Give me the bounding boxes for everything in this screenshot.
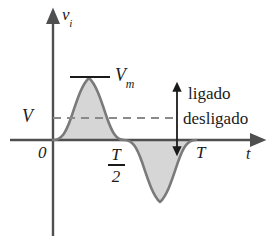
fraction-bar <box>108 164 125 166</box>
peak-label-subscript: m <box>126 77 135 91</box>
peak-label-base: V <box>115 65 126 85</box>
period-label: T <box>196 144 205 161</box>
on-label: ligado <box>188 85 231 102</box>
negative-half-shading <box>124 140 196 202</box>
origin-label: 0 <box>38 144 47 161</box>
y-axis-label: vi <box>62 6 73 27</box>
waveform-figure: vi Vm V 0 T 2 T t ligado desligado <box>0 0 273 248</box>
x-axis-label: t <box>246 146 250 162</box>
threshold-label: V <box>22 107 33 125</box>
off-label: desligado <box>183 110 248 127</box>
half-period-numerator: T <box>103 146 129 164</box>
half-period-denominator: 2 <box>103 167 129 185</box>
peak-label: Vm <box>115 66 135 88</box>
y-axis-label-subscript: i <box>69 17 72 29</box>
half-period-label: T 2 <box>103 146 129 185</box>
